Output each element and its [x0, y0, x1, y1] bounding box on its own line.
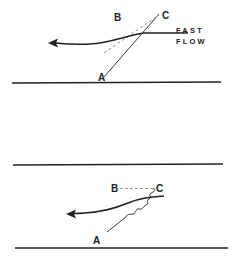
top-dashed-line-b-c	[104, 15, 159, 53]
bottom-wavy-interface-line	[107, 189, 155, 233]
bottom-panel: B C A	[15, 183, 228, 248]
flow-label: FLOW	[176, 37, 207, 46]
top-line-a-c	[104, 14, 159, 77]
bottom-label-c: C	[156, 183, 163, 194]
flow-diagram: B C A FAST FLOW B C A	[0, 0, 237, 257]
bottom-label-a: A	[93, 235, 100, 246]
top-flow-arrow-line	[55, 33, 188, 44]
middle-boundary-line	[13, 164, 223, 165]
top-label-a: A	[98, 72, 105, 83]
top-label-b: B	[114, 12, 121, 23]
fast-label: FAST	[176, 26, 204, 35]
top-panel: B C A FAST FLOW	[12, 10, 221, 83]
top-label-c: C	[162, 10, 169, 21]
bottom-label-b: B	[111, 183, 118, 194]
top-boundary-line	[12, 82, 221, 83]
